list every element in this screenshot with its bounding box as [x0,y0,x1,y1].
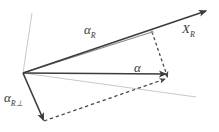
diagram-background [0,0,219,132]
figure-canvas: αR XR α αR⊥ [0,0,219,132]
alpha-label-base: α [134,60,142,75]
projection-point-on-alpha-R [150,30,153,33]
alpha-R-perp-label-sub: R⊥ [10,99,23,108]
alpha-R-label-sub: R [90,31,96,40]
vector-decomposition-diagram: αR XR α αR⊥ [0,0,219,132]
X-R-label-sub: R [189,30,195,39]
alpha-vector [23,73,166,74]
alpha-label-group: α [134,60,142,75]
